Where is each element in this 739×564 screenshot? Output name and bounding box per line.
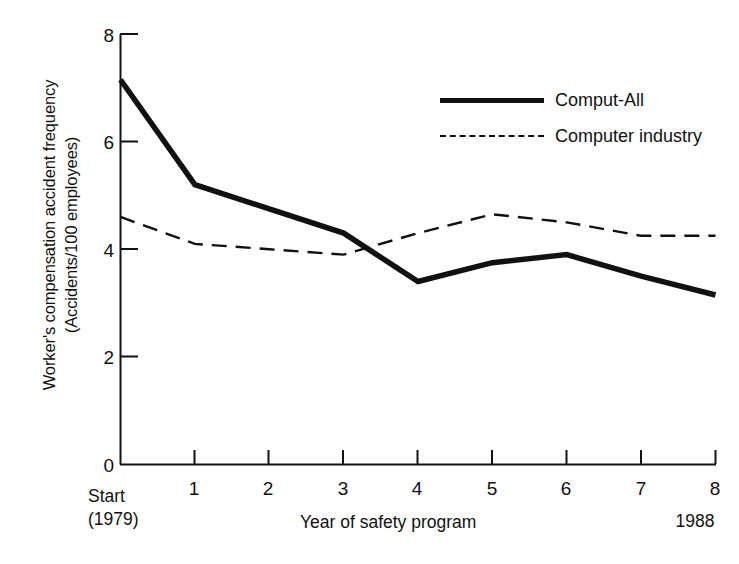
series-line-computer-industry	[121, 214, 716, 254]
x-axis-ticks	[195, 450, 716, 464]
line-chart: Worker's compensation accident frequency…	[0, 0, 739, 564]
plot-area	[0, 0, 739, 564]
series-line-comput-all	[121, 80, 716, 295]
